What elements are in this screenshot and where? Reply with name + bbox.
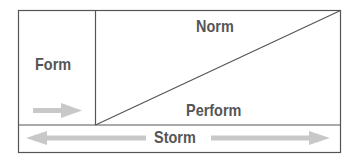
- stage-label-perform: Perform: [186, 101, 241, 121]
- storm-arrow-left-icon: [26, 131, 146, 145]
- stage-label-form: Form: [35, 55, 71, 75]
- form-arrow-right-icon: [33, 103, 82, 118]
- stage-label-norm: Norm: [196, 17, 234, 37]
- stage-label-storm: Storm: [154, 128, 196, 148]
- storm-arrow-right-icon: [211, 131, 330, 145]
